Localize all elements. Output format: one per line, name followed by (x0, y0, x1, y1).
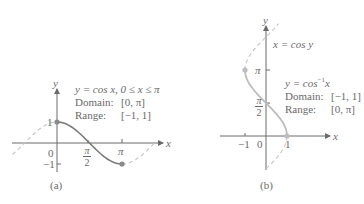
panel-a-caption: (a) (50, 179, 62, 191)
panel-b-tick-zero-label: 0 (257, 138, 263, 150)
plot-canvas (0, 0, 364, 204)
panel-a-y-axis-label: y (53, 77, 58, 89)
panel-b-x-axis-label: x (333, 130, 338, 142)
pi-half-denominator: 2 (85, 158, 90, 167)
panel-a-domain-value: [0, π] (121, 96, 145, 108)
panel-b-equation-prefix: y = cos (285, 77, 317, 89)
panel-a-equation: y = cos x, 0 ≤ x ≤ π (75, 83, 160, 95)
endpoint-dot (54, 119, 59, 124)
panel-a-equation-text: y = cos x, 0 ≤ x ≤ π (75, 83, 160, 95)
panel-a-tick-pi-label: π (118, 145, 124, 157)
panel-b-equation: y = cos−1x (285, 77, 330, 89)
panel-b-tick-pi-label: π (255, 64, 261, 76)
panel-a-x-axis-label: x (166, 137, 171, 149)
panel-b-range-value: [0, π] (331, 103, 355, 115)
panel-b-equation-suffix: x (325, 77, 330, 89)
panel-a-domain: Domain:[0, π] (75, 96, 145, 108)
panel-a-tick-neg-one-label: −1 (43, 158, 55, 170)
pi-half-numerator: π (256, 96, 261, 105)
panel-b-domain-label: Domain: (285, 90, 331, 102)
panel-b-curve-label: x = cos y (273, 38, 313, 50)
panel-b-range-label: Range: (285, 103, 331, 115)
endpoint-dot (119, 161, 124, 166)
dashed-curve-segment (266, 136, 287, 169)
panel-b-tick-pi-half-label: π 2 (255, 96, 263, 117)
panel-b-domain-value: [−1, 1] (331, 90, 361, 102)
panel-a-tick-one-label: 1 (47, 116, 53, 128)
panel-a-tick-pi-half-label: π 2 (83, 146, 91, 167)
panel-a-range: Range:[−1, 1] (75, 109, 151, 121)
panel-b-tick-neg-one-label: −1 (238, 138, 250, 150)
panel-b-tick-one-label: 1 (285, 138, 291, 150)
dashed-curve-segment (122, 143, 154, 164)
endpoint-dot (242, 67, 247, 72)
panel-a-range-label: Range: (75, 109, 121, 121)
panel-b-domain: Domain:[−1, 1] (285, 90, 361, 102)
panel-a-range-value: [−1, 1] (121, 109, 151, 121)
pi-half-denominator: 2 (257, 108, 262, 117)
panel-b-y-axis-label: y (263, 14, 268, 26)
panel-b-range: Range:[0, π] (285, 103, 355, 115)
panel-b-caption: (b) (260, 179, 273, 191)
panel-b-equation-sup: −1 (317, 76, 324, 84)
pi-half-numerator: π (84, 146, 89, 155)
panel-a-domain-label: Domain: (75, 96, 121, 108)
